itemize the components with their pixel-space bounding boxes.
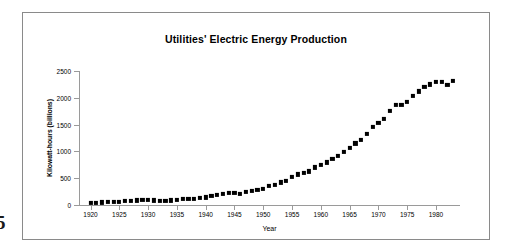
data-point [169, 198, 173, 202]
data-point [192, 197, 196, 201]
x-tick [321, 205, 322, 210]
y-tick-label: 2000 [23, 94, 71, 101]
x-tick-label: 1955 [285, 211, 299, 218]
data-point [359, 138, 363, 142]
data-point [296, 172, 300, 176]
x-tick [436, 205, 437, 210]
x-tick-label: 1920 [83, 211, 97, 218]
x-tick [407, 205, 408, 210]
data-point [382, 117, 386, 121]
x-tick-label: 1925 [112, 211, 126, 218]
y-tick-label: 0 [23, 202, 71, 209]
data-point [255, 188, 259, 192]
data-point [428, 82, 432, 86]
data-point [411, 94, 415, 98]
x-tick [378, 205, 379, 210]
data-point [451, 79, 455, 83]
data-point [324, 160, 328, 164]
y-tick-label: 2500 [23, 68, 71, 75]
x-tick-label: 1935 [170, 211, 184, 218]
data-point [163, 199, 167, 203]
data-point [284, 179, 288, 183]
data-point [278, 180, 282, 184]
figure-frame: Utilities' Electric Energy Production Ki… [22, 12, 490, 240]
data-point [342, 150, 346, 154]
data-point [175, 198, 179, 202]
data-point [198, 196, 202, 200]
data-point [330, 157, 334, 161]
data-point [94, 201, 98, 205]
data-point [227, 191, 231, 195]
x-tick-label: 1975 [400, 211, 414, 218]
data-point [445, 83, 449, 87]
data-point [394, 103, 398, 107]
plot-area [79, 71, 459, 205]
data-point [290, 175, 294, 179]
data-point [100, 200, 104, 204]
x-tick [119, 205, 120, 210]
x-tick-label: 1965 [342, 211, 356, 218]
data-point [221, 192, 225, 196]
chart-title: Utilities' Electric Energy Production [23, 33, 489, 45]
data-point [186, 197, 190, 201]
x-tick [148, 205, 149, 210]
x-tick [292, 205, 293, 210]
data-point [376, 121, 380, 125]
x-tick-label: 1950 [256, 211, 270, 218]
x-tick-label: 1980 [429, 211, 443, 218]
x-tick [350, 205, 351, 210]
x-tick-label: 1970 [371, 211, 385, 218]
data-point [301, 170, 305, 174]
x-axis-line [79, 205, 460, 206]
data-point [181, 197, 185, 201]
data-point [232, 191, 236, 195]
data-point [422, 84, 426, 88]
data-point [273, 182, 277, 186]
data-point [215, 193, 219, 197]
y-tick-label: 1000 [23, 148, 71, 155]
x-tick-label: 1940 [198, 211, 212, 218]
x-tick-label: 1960 [314, 211, 328, 218]
data-point [244, 190, 248, 194]
data-point [365, 132, 369, 136]
x-tick [206, 205, 207, 210]
data-point [134, 198, 138, 202]
y-tick-label: 1500 [23, 121, 71, 128]
x-tick [234, 205, 235, 210]
data-point [307, 169, 311, 173]
data-point [319, 162, 323, 166]
data-point [417, 89, 421, 93]
data-point [371, 125, 375, 129]
data-point [140, 198, 144, 202]
data-point [250, 189, 254, 193]
data-point [209, 194, 213, 198]
data-point [405, 100, 409, 104]
data-point [111, 200, 115, 204]
data-point [158, 199, 162, 203]
y-axis-title: Kilowatt-hours (billions) [46, 99, 53, 177]
data-point [106, 200, 110, 204]
data-point [353, 141, 357, 145]
data-point [152, 198, 156, 202]
data-point [267, 184, 271, 188]
data-point [261, 187, 265, 191]
data-point [348, 146, 352, 150]
x-tick [263, 205, 264, 210]
y-tick-label: 500 [23, 175, 71, 182]
data-point [313, 165, 317, 169]
data-point [146, 198, 150, 202]
data-point [434, 80, 438, 84]
data-point [440, 80, 444, 84]
x-tick [91, 205, 92, 210]
x-tick-label: 1930 [141, 211, 155, 218]
data-point [336, 154, 340, 158]
data-point [88, 201, 92, 205]
data-point [117, 199, 121, 203]
data-point [388, 109, 392, 113]
data-point [399, 103, 403, 107]
x-tick-label: 1945 [227, 211, 241, 218]
x-tick [177, 205, 178, 210]
data-point [204, 195, 208, 199]
y-tick [74, 205, 80, 206]
data-point [123, 199, 127, 203]
